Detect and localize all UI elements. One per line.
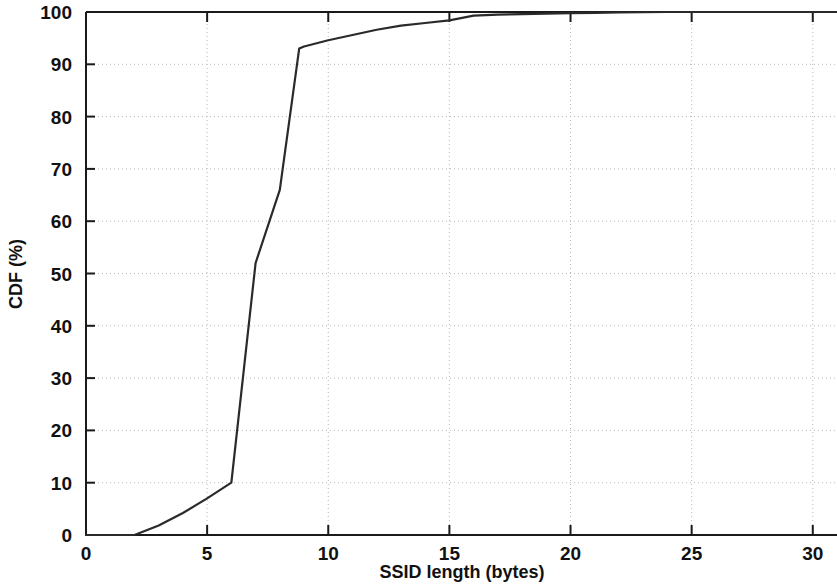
y-axis-tick-labels: 0102030405060708090100 bbox=[40, 2, 72, 546]
y-axis-tick-label: 90 bbox=[51, 54, 72, 75]
y-axis-tick-label: 100 bbox=[40, 2, 72, 23]
x-axis-tick-label: 25 bbox=[681, 543, 703, 564]
y-axis-title: CDF (%) bbox=[6, 239, 26, 309]
x-axis-tick-label: 0 bbox=[81, 543, 92, 564]
y-axis-tick-label: 0 bbox=[61, 525, 72, 546]
x-axis-tick-label: 10 bbox=[318, 543, 339, 564]
y-axis-tick-label: 30 bbox=[51, 368, 72, 389]
x-axis-title: SSID length (bytes) bbox=[379, 562, 544, 582]
y-axis-tick-label: 80 bbox=[51, 107, 72, 128]
x-axis-tick-label: 30 bbox=[802, 543, 823, 564]
y-axis-tick-label: 40 bbox=[51, 316, 72, 337]
x-axis-tick-label: 5 bbox=[202, 543, 213, 564]
y-axis-tick-label: 10 bbox=[51, 473, 72, 494]
chart-canvas: 0102030405060708090100 051015202530 SSID… bbox=[0, 0, 837, 587]
y-axis-tick-label: 20 bbox=[51, 420, 72, 441]
x-axis-tick-labels: 051015202530 bbox=[81, 543, 824, 564]
y-axis-tick-label: 50 bbox=[51, 264, 72, 285]
y-axis-tick-label: 70 bbox=[51, 159, 72, 180]
cdf-chart-figure: 0102030405060708090100 051015202530 SSID… bbox=[0, 0, 837, 587]
x-axis-tick-label: 20 bbox=[560, 543, 581, 564]
y-axis-tick-label: 60 bbox=[51, 211, 72, 232]
x-axis-tick-label: 15 bbox=[439, 543, 461, 564]
